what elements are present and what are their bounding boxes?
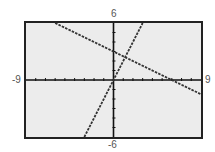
xmin-label: -9 (12, 75, 21, 85)
ymax-label: 6 (111, 9, 117, 19)
ymin-label: -6 (108, 140, 117, 150)
xmax-label: 9 (205, 75, 211, 85)
graph-screen (0, 0, 215, 152)
